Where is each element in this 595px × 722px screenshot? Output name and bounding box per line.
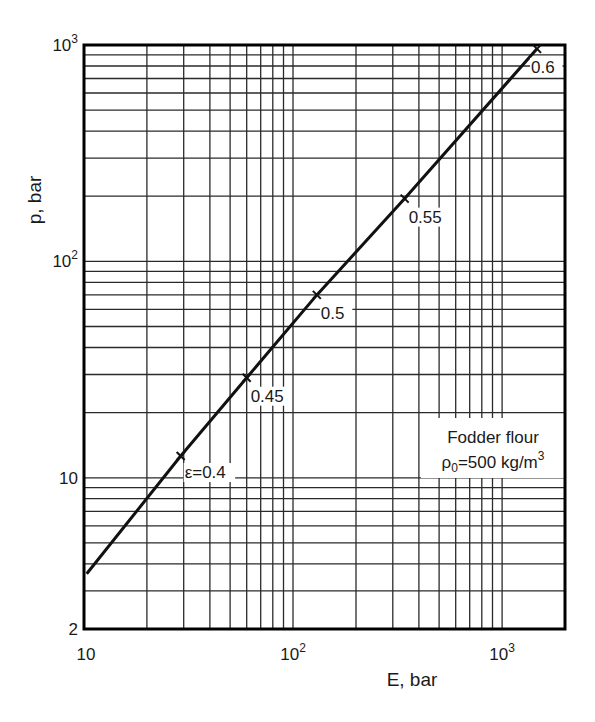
y-tick-label: 102 (52, 248, 78, 271)
y-axis-label: p, bar (24, 175, 45, 224)
y-tick-label: 2 (69, 620, 78, 639)
rho-symbol: ρ (442, 453, 452, 472)
marker-label: 0.55 (409, 208, 442, 227)
unit-superscript: 3 (538, 449, 545, 463)
x-axis-ticks: 10102103 (77, 641, 516, 664)
density-value: =500 kg/m (458, 453, 538, 472)
x-tick-label: 103 (489, 641, 515, 664)
annotation-material: Fodder flour (447, 428, 539, 447)
y-axis-ticks: 210102103 (52, 32, 78, 639)
annotation-density: ρ0=500 kg/m3 (442, 449, 545, 475)
x-tick-label: 102 (280, 641, 306, 664)
grid-lines (84, 45, 565, 629)
marker-label: 0.6 (531, 58, 555, 77)
x-tick-label: 10 (77, 645, 96, 664)
marker-label: ε=0.4 (185, 463, 226, 482)
chart-svg: Fodder flour ρ0=500 kg/m3 ε=0.40.450.50.… (0, 0, 595, 722)
marker-label: 0.45 (251, 387, 284, 406)
y-tick-label: 103 (52, 32, 78, 55)
marker-label: 0.5 (321, 304, 345, 323)
y-tick-label: 10 (59, 469, 78, 488)
x-axis-label: E, bar (387, 669, 438, 690)
